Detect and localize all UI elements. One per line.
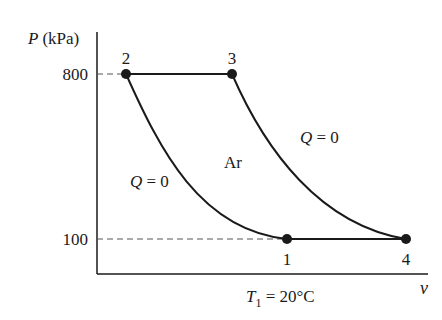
point-label-4: 4 [402, 250, 411, 269]
tick-label-800: 800 [63, 65, 89, 84]
process-3-4-curve [232, 74, 406, 239]
point-label-3: 3 [228, 49, 237, 68]
substance-label: Ar [224, 153, 242, 172]
point-label-1: 1 [283, 250, 292, 269]
state-point-4 [401, 234, 411, 244]
point-label-2: 2 [122, 49, 131, 68]
y-axis-title: P(kPa) [27, 29, 79, 48]
temperature-condition: T1 = 20°C [246, 287, 315, 310]
pv-diagram: P(kPa) 800 100 2 3 1 4 Ar Q = 0 Q = 0 v … [0, 0, 442, 320]
adiabatic-label-left: Q = 0 [130, 172, 169, 191]
state-point-2 [121, 69, 131, 79]
process-1-2-curve [126, 74, 287, 239]
x-axis-title: v [420, 278, 428, 298]
state-point-3 [227, 69, 237, 79]
state-point-1 [282, 234, 292, 244]
tick-label-100: 100 [63, 230, 89, 249]
adiabatic-label-right: Q = 0 [300, 128, 339, 147]
